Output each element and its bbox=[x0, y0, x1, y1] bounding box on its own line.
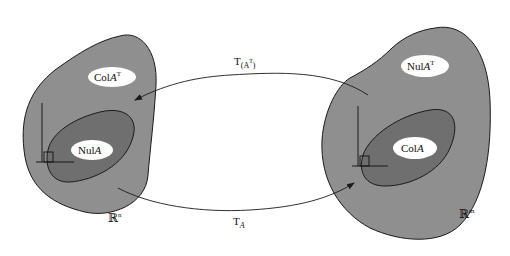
right-space-rm: NulAT ColA ℝm bbox=[322, 27, 490, 239]
col-a-label: ColA bbox=[401, 142, 424, 154]
transpose-map-arrow: T(AT) bbox=[135, 55, 368, 100]
a-map-label: TA bbox=[233, 215, 245, 230]
transpose-map-label: T(AT) bbox=[234, 55, 256, 70]
rm-label: ℝm bbox=[459, 207, 475, 221]
rn-label: ℝn bbox=[108, 211, 122, 225]
a-map-arrow: TA bbox=[118, 183, 354, 230]
nul-a-label: NulA bbox=[78, 144, 102, 156]
subspaces-diagram: ColAT NulA ℝn NulAT ColA ℝm T(AT) TA bbox=[0, 0, 510, 256]
